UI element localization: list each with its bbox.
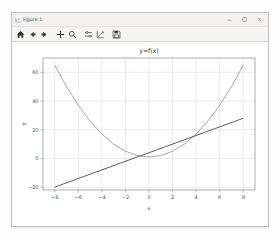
toolbar-separator-1 xyxy=(51,29,54,40)
y-tick-label: 20 xyxy=(32,127,38,133)
maximize-button[interactable] xyxy=(237,14,252,26)
figure-canvas[interactable]: −8−6−4−202468−200204060y=f(x)xy xyxy=(12,42,268,226)
title-bar-left: Figure 1 xyxy=(15,17,222,23)
window-title: Figure 1 xyxy=(23,17,42,23)
toolbar-separator-2 xyxy=(79,29,82,40)
toolbar-separator-3 xyxy=(107,29,110,40)
navigation-toolbar xyxy=(12,27,268,42)
x-tick-label: 0 xyxy=(147,194,150,200)
move-cross-icon[interactable] xyxy=(55,29,66,40)
window-controls xyxy=(222,14,267,26)
y-axis-label: y xyxy=(20,122,27,125)
y-tick-label: 60 xyxy=(32,69,38,75)
x-tick-label: 6 xyxy=(218,194,221,200)
window-title-bar[interactable]: Figure 1 xyxy=(12,13,268,27)
chart-title: y=f(x) xyxy=(139,47,159,55)
home-icon[interactable] xyxy=(15,29,26,40)
x-axis-label: x xyxy=(147,205,150,211)
y-tick-label: 0 xyxy=(35,155,38,161)
screen: Figure 1 xyxy=(0,0,278,240)
floppy-disk-icon[interactable] xyxy=(111,29,122,40)
x-tick-label: −8 xyxy=(51,194,58,200)
magnifier-icon[interactable] xyxy=(67,29,78,40)
figure-window: Figure 1 xyxy=(11,12,269,227)
y-tick-label: −20 xyxy=(28,184,39,190)
axis-edit-icon[interactable] xyxy=(95,29,106,40)
arrow-left-icon[interactable] xyxy=(27,29,38,40)
figure-icon xyxy=(15,17,21,23)
minimize-button[interactable] xyxy=(222,14,237,26)
x-tick-label: 8 xyxy=(242,194,245,200)
x-tick-label: −4 xyxy=(98,194,105,200)
plot-area: −8−6−4−202468−200204060y=f(x)xy xyxy=(12,42,266,226)
sliders-icon[interactable] xyxy=(83,29,94,40)
close-button[interactable] xyxy=(252,14,267,26)
x-tick-label: −6 xyxy=(75,194,82,200)
arrow-right-icon[interactable] xyxy=(39,29,50,40)
y-tick-label: 40 xyxy=(32,98,38,104)
x-tick-label: 4 xyxy=(195,194,198,200)
x-tick-label: 2 xyxy=(171,194,174,200)
x-tick-label: −2 xyxy=(122,194,129,200)
